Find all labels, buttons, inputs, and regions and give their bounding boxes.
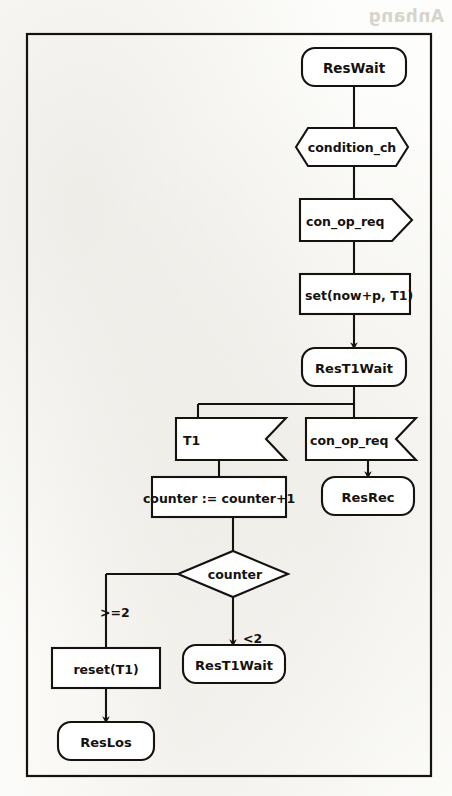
node-decision-counter[interactable]: counter [178, 551, 288, 597]
node-input-t1[interactable]: T1 [176, 418, 286, 460]
sdl-diagram-canvas: ResWait condition_ch con_op_req set(now+… [0, 0, 452, 796]
node-label-reswait: ResWait [323, 60, 386, 76]
node-state-reslos[interactable]: ResLos [58, 722, 154, 760]
node-label-reslos: ResLos [80, 735, 132, 750]
node-state-rest1wait-loop[interactable]: ResT1Wait [183, 645, 285, 683]
node-label-condition-ch: condition_ch [308, 140, 396, 156]
node-label-set-timer: set(now+p, T1) [305, 288, 413, 303]
node-label-rest1wait: ResT1Wait [315, 361, 393, 376]
node-label-t1: T1 [183, 433, 200, 448]
node-label-con-op-req-in: con_op_req [310, 433, 389, 449]
node-task-reset-timer[interactable]: reset(T1) [52, 648, 160, 688]
node-label-reset-timer: reset(T1) [73, 662, 138, 677]
node-label-rest1wait-loop: ResT1Wait [195, 658, 273, 673]
node-state-resrec[interactable]: ResRec [322, 477, 414, 515]
edge-label-ge2: >=2 [100, 605, 130, 620]
node-label-increment-counter: counter := counter+1 [143, 491, 295, 506]
node-state-reswait[interactable]: ResWait [302, 48, 406, 86]
node-task-increment-counter[interactable]: counter := counter+1 [143, 477, 295, 517]
node-label-decision-counter: counter [208, 567, 263, 582]
connector-layer [106, 86, 368, 720]
node-input-condition-ch[interactable]: condition_ch [296, 128, 408, 166]
diagram-page: Anhang [0, 0, 452, 796]
node-state-rest1wait[interactable]: ResT1Wait [302, 348, 406, 386]
node-label-resrec: ResRec [341, 490, 394, 505]
node-task-set-timer[interactable]: set(now+p, T1) [300, 274, 413, 314]
node-input-con-op-req[interactable]: con_op_req [306, 418, 416, 460]
node-label-con-op-req-out: con_op_req [306, 214, 385, 230]
edge-label-lt2: <2 [243, 631, 262, 646]
node-output-con-op-req[interactable]: con_op_req [300, 199, 412, 241]
